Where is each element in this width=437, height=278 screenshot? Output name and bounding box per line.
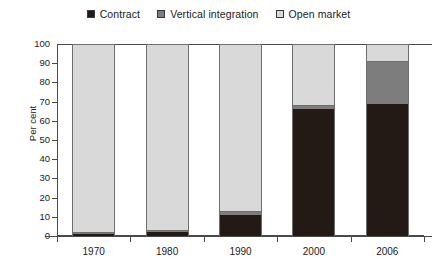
x-axis-line (45, 236, 432, 237)
legend-label: Open market (289, 8, 351, 20)
y-axis-tick-label: 10 (24, 212, 50, 222)
y-axis-tick-mark (52, 102, 57, 103)
bar-segment-1970-open-market (73, 44, 114, 232)
bar-segment-1970-contract (73, 234, 114, 236)
legend-swatch-open-icon (276, 10, 284, 18)
y-axis-tick-label: 50 (24, 135, 50, 145)
y-axis-tick-mark (52, 217, 57, 218)
y-axis-tick-label: 30 (24, 173, 50, 183)
legend-label: Vertical integration (170, 8, 258, 20)
x-axis-tick-label: 1980 (137, 246, 197, 257)
y-axis-tick-mark (52, 198, 57, 199)
bar-segment-1990-contract (220, 215, 261, 236)
bar-segment-1990-open-market (220, 44, 261, 211)
x-axis-tick-mark (204, 237, 205, 242)
y-axis-tick-label: 100 (24, 39, 50, 49)
legend-swatch-vertical-icon (157, 10, 165, 18)
y-axis-tick-label: 60 (24, 116, 50, 126)
y-axis-tick-label: 90 (24, 58, 50, 68)
legend-item-open: Open market (276, 8, 351, 20)
y-axis-tick-mark (52, 63, 57, 64)
y-axis-tick-mark (52, 82, 57, 83)
y-axis-tick-label: 20 (24, 193, 50, 203)
bar-1990 (219, 44, 262, 236)
legend-item-vertical: Vertical integration (157, 8, 258, 20)
x-axis-tick-label: 2006 (357, 246, 417, 257)
legend-swatch-contract-icon (87, 10, 95, 18)
x-axis-tick-mark (424, 237, 425, 242)
y-axis-tick-mark (52, 140, 57, 141)
bar-segment-2006-vertical-integration (367, 61, 408, 103)
bar-1980 (146, 44, 189, 236)
y-axis-tick-label: 70 (24, 97, 50, 107)
x-axis-tick-label: 2000 (284, 246, 344, 257)
bar-segment-1980-open-market (147, 44, 188, 230)
bar-2006 (366, 44, 409, 236)
bar-segment-2000-open-market (293, 44, 334, 105)
bar-1970 (72, 44, 115, 236)
bar-2000 (292, 44, 335, 236)
chart-figure: ContractVertical integrationOpen market … (0, 0, 437, 278)
x-axis-tick-mark (57, 237, 58, 242)
x-axis-tick-label: 1970 (64, 246, 124, 257)
bar-segment-2006-open-market (367, 44, 408, 61)
bar-segment-1970-vertical-integration (73, 232, 114, 234)
bar-segment-1990-vertical-integration (220, 211, 261, 215)
legend-item-contract: Contract (87, 8, 140, 20)
bar-segment-2000-vertical-integration (293, 105, 334, 109)
bar-segment-2006-contract (367, 104, 408, 236)
bar-segment-1980-contract (147, 232, 188, 236)
chart-legend: ContractVertical integrationOpen market (0, 4, 437, 24)
y-axis-tick-mark (52, 178, 57, 179)
x-axis-tick-label: 1990 (211, 246, 271, 257)
y-axis-tick-mark (52, 159, 57, 160)
x-axis-tick-mark (277, 237, 278, 242)
legend-label: Contract (100, 8, 140, 20)
y-axis-tick-label: 80 (24, 77, 50, 87)
x-axis-tick-mark (351, 237, 352, 242)
y-axis-tick-label: 40 (24, 154, 50, 164)
x-axis-tick-mark (130, 237, 131, 242)
bar-segment-2000-contract (293, 109, 334, 236)
bar-segment-1980-vertical-integration (147, 230, 188, 232)
y-axis-tick-mark (52, 121, 57, 122)
